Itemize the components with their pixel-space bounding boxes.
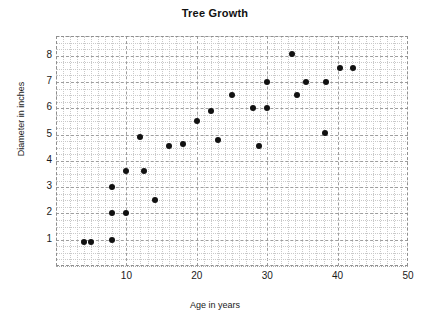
gridline-minor-vertical bbox=[359, 36, 360, 266]
gridline-minor-vertical bbox=[295, 36, 296, 266]
gridline-minor-horizontal bbox=[56, 148, 408, 149]
gridline-minor-horizontal bbox=[56, 220, 408, 221]
gridline-minor-vertical bbox=[218, 36, 219, 266]
gridline-minor-horizontal bbox=[56, 194, 408, 195]
gridline-minor-vertical bbox=[324, 36, 325, 266]
scatter-chart-figure: Tree Growth Diameter in inches 12345678 … bbox=[0, 0, 430, 326]
gridline-minor-vertical bbox=[380, 36, 381, 266]
gridline-minor-vertical bbox=[302, 36, 303, 266]
gridline-minor-vertical bbox=[176, 36, 177, 266]
gridline-minor-horizontal bbox=[56, 75, 408, 76]
x-tick-label: 30 bbox=[252, 270, 282, 281]
gridline-major-horizontal bbox=[56, 56, 408, 57]
gridline-minor-vertical bbox=[288, 36, 289, 266]
y-tick-label: 7 bbox=[32, 75, 52, 86]
gridline-minor-vertical bbox=[140, 36, 141, 266]
gridline-minor-vertical bbox=[373, 36, 374, 266]
gridline-minor-horizontal bbox=[56, 174, 408, 175]
y-tick-label: 5 bbox=[32, 128, 52, 139]
x-axis-rule bbox=[56, 266, 408, 267]
gridline-minor-horizontal bbox=[56, 167, 408, 168]
gridline-minor-horizontal bbox=[56, 227, 408, 228]
gridline-minor-vertical bbox=[274, 36, 275, 266]
gridline-minor-vertical bbox=[190, 36, 191, 266]
gridlines bbox=[56, 36, 408, 266]
y-tick-label: 1 bbox=[32, 233, 52, 244]
gridline-minor-vertical bbox=[204, 36, 205, 266]
gridline-minor-vertical bbox=[162, 36, 163, 266]
gridline-minor-vertical bbox=[148, 36, 149, 266]
x-axis-tick-labels: 1020304050 bbox=[56, 268, 408, 288]
data-point bbox=[323, 79, 329, 85]
y-tick-label: 4 bbox=[32, 154, 52, 165]
gridline-minor-vertical bbox=[91, 36, 92, 266]
data-point bbox=[303, 79, 309, 85]
x-tick-label: 40 bbox=[323, 270, 353, 281]
gridline-minor-vertical bbox=[401, 36, 402, 266]
gridline-minor-vertical bbox=[316, 36, 317, 266]
plot-border-right bbox=[407, 36, 408, 266]
gridline-minor-vertical bbox=[246, 36, 247, 266]
gridline-minor-vertical bbox=[394, 36, 395, 266]
y-tick-label: 2 bbox=[32, 206, 52, 217]
y-tick-label: 6 bbox=[32, 101, 52, 112]
data-point bbox=[337, 65, 343, 71]
gridline-minor-horizontal bbox=[56, 259, 408, 260]
plot-border-left bbox=[56, 36, 57, 266]
gridline-minor-horizontal bbox=[56, 62, 408, 63]
gridline-major-horizontal bbox=[56, 82, 408, 83]
gridline-major-vertical bbox=[267, 36, 268, 266]
gridline-minor-vertical bbox=[232, 36, 233, 266]
gridline-minor-horizontal bbox=[56, 128, 408, 129]
gridline-minor-vertical bbox=[77, 36, 78, 266]
gridline-minor-vertical bbox=[70, 36, 71, 266]
gridline-minor-vertical bbox=[169, 36, 170, 266]
data-point bbox=[350, 65, 356, 71]
gridline-minor-horizontal bbox=[56, 102, 408, 103]
gridline-minor-horizontal bbox=[56, 141, 408, 142]
data-point bbox=[152, 197, 158, 203]
gridline-minor-horizontal bbox=[56, 115, 408, 116]
x-tick-label: 10 bbox=[111, 270, 141, 281]
x-tick-label: 20 bbox=[182, 270, 212, 281]
x-axis-label: Age in years bbox=[0, 300, 430, 310]
plot-area bbox=[56, 36, 408, 266]
gridline-minor-vertical bbox=[183, 36, 184, 266]
y-tick-label: 3 bbox=[32, 180, 52, 191]
gridline-minor-vertical bbox=[119, 36, 120, 266]
gridline-minor-horizontal bbox=[56, 181, 408, 182]
gridline-minor-vertical bbox=[84, 36, 85, 266]
gridline-minor-vertical bbox=[281, 36, 282, 266]
gridline-minor-vertical bbox=[63, 36, 64, 266]
gridline-minor-horizontal bbox=[56, 43, 408, 44]
data-point bbox=[215, 137, 221, 143]
gridline-minor-horizontal bbox=[56, 121, 408, 122]
gridline-major-horizontal bbox=[56, 135, 408, 136]
y-axis-tick-labels: 12345678 bbox=[28, 36, 52, 266]
gridline-minor-vertical bbox=[112, 36, 113, 266]
gridline-minor-vertical bbox=[366, 36, 367, 266]
x-tick-label: 50 bbox=[393, 270, 423, 281]
gridline-minor-vertical bbox=[155, 36, 156, 266]
gridline-minor-vertical bbox=[239, 36, 240, 266]
gridline-minor-horizontal bbox=[56, 200, 408, 201]
gridline-major-horizontal bbox=[56, 108, 408, 109]
gridline-minor-horizontal bbox=[56, 233, 408, 234]
gridline-minor-horizontal bbox=[56, 253, 408, 254]
gridline-minor-horizontal bbox=[56, 246, 408, 247]
plot-border-top bbox=[56, 36, 408, 37]
chart-title: Tree Growth bbox=[0, 7, 430, 19]
data-point bbox=[180, 141, 186, 147]
gridline-minor-horizontal bbox=[56, 49, 408, 50]
gridline-major-horizontal bbox=[56, 161, 408, 162]
gridline-minor-vertical bbox=[133, 36, 134, 266]
gridline-minor-horizontal bbox=[56, 207, 408, 208]
gridline-minor-vertical bbox=[98, 36, 99, 266]
gridline-minor-vertical bbox=[345, 36, 346, 266]
gridline-minor-horizontal bbox=[56, 154, 408, 155]
gridline-major-vertical bbox=[126, 36, 127, 266]
y-axis-label: Diameter in inches bbox=[16, 54, 26, 184]
gridline-minor-vertical bbox=[331, 36, 332, 266]
gridline-minor-horizontal bbox=[56, 89, 408, 90]
gridline-minor-vertical bbox=[253, 36, 254, 266]
